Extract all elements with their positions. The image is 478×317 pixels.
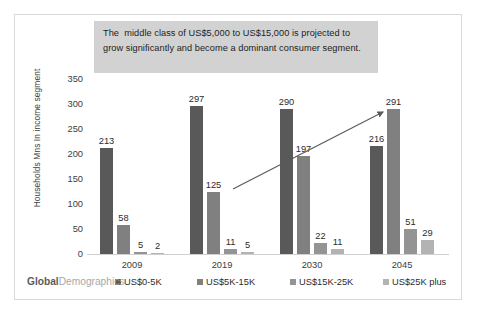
- bar[interactable]: 197: [297, 79, 310, 254]
- callout-textbox: The middle class of US$5,000 to US$15,00…: [94, 21, 378, 73]
- plot-area: 213585229712511529019722112162915129: [87, 79, 447, 254]
- bar[interactable]: 5: [134, 79, 147, 254]
- legend-item[interactable]: US$25K plus: [383, 277, 446, 287]
- bar[interactable]: 11: [331, 79, 344, 254]
- x-axis-line: [87, 254, 449, 255]
- bar-group: 297125115: [177, 79, 267, 254]
- bar[interactable]: 5: [241, 79, 254, 254]
- brand-logo: GlobalDemographics: [27, 276, 124, 287]
- legend-item[interactable]: US$5K-15K: [197, 277, 255, 287]
- bar-value-label: 5: [228, 240, 268, 250]
- legend-swatch-icon: [197, 279, 203, 285]
- y-axis-tick-label: 300: [53, 99, 83, 109]
- bar[interactable]: 29: [421, 79, 434, 254]
- y-axis-tick-label: 50: [53, 224, 83, 234]
- legend-label: US$0-5K: [124, 277, 162, 287]
- bar-rect: [421, 240, 434, 255]
- bar-rect: [331, 249, 344, 255]
- bar-group: 2135852: [87, 79, 177, 254]
- bar-value-label: 2: [138, 241, 178, 251]
- legend-swatch-icon: [290, 279, 296, 285]
- y-axis-tick-label: 200: [53, 149, 83, 159]
- brand-primary: Global: [27, 276, 59, 287]
- bar-rect: [100, 148, 113, 255]
- chart-legend: US$0-5KUS$5K-15KUS$15K-25KUS$25K plus: [115, 277, 455, 293]
- y-axis-tick-label: 0: [53, 249, 83, 259]
- y-axis-ticks: 050100150200250300350: [49, 79, 83, 254]
- bar-group: 2162915129: [357, 79, 447, 254]
- bar-rect: [280, 109, 293, 254]
- y-axis-title: Households Mns In income segment: [32, 53, 42, 223]
- bar[interactable]: 58: [117, 79, 130, 254]
- legend-label: US$15K-25K: [299, 277, 353, 287]
- bar-group: 2901972211: [267, 79, 357, 254]
- bar-rect: [151, 253, 164, 254]
- bar-value-label: 11: [318, 237, 358, 247]
- callout-text: The middle class of US$5,000 to US$15,00…: [103, 26, 370, 55]
- bar-value-label: 29: [408, 228, 448, 238]
- bar[interactable]: 2: [151, 79, 164, 254]
- bar-rect: [134, 252, 147, 255]
- y-axis-tick-label: 350: [53, 74, 83, 84]
- legend-swatch-icon: [383, 279, 389, 285]
- chart-container: The middle class of US$5,000 to US$15,00…: [14, 14, 462, 300]
- x-axis-tick-label: 2009: [102, 260, 162, 270]
- y-axis-tick-label: 250: [53, 124, 83, 134]
- x-axis-tick-label: 2045: [372, 260, 432, 270]
- bar[interactable]: 291: [387, 79, 400, 254]
- brand-secondary: Demographics: [59, 276, 125, 287]
- bar-rect: [241, 252, 254, 255]
- bar[interactable]: 297: [190, 79, 203, 254]
- bar[interactable]: 22: [314, 79, 327, 254]
- legend-item[interactable]: US$15K-25K: [290, 277, 353, 287]
- y-axis-tick-label: 100: [53, 199, 83, 209]
- bar[interactable]: 213: [100, 79, 113, 254]
- bar[interactable]: 290: [280, 79, 293, 254]
- bar-rect: [387, 109, 400, 255]
- x-axis-tick-label: 2019: [192, 260, 252, 270]
- y-axis-tick-label: 150: [53, 174, 83, 184]
- legend-label: US$25K plus: [392, 277, 446, 287]
- bar[interactable]: 11: [224, 79, 237, 254]
- x-axis-tick-label: 2030: [282, 260, 342, 270]
- bar-rect: [370, 146, 383, 254]
- legend-label: US$5K-15K: [206, 277, 255, 287]
- bar[interactable]: 125: [207, 79, 220, 254]
